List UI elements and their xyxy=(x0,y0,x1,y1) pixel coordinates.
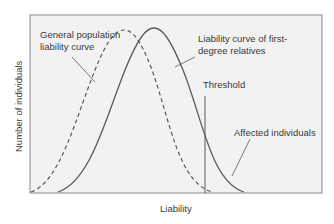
general-label-2: liability curve xyxy=(40,41,94,52)
y-axis-label: Number of individuals xyxy=(13,60,24,152)
relatives-label-2: degree relatives xyxy=(198,45,266,56)
relatives-label-1: Liability curve of first- xyxy=(198,33,287,44)
general-label-1: General population xyxy=(40,29,120,40)
liability-threshold-diagram: General population liability curve Liabi… xyxy=(0,0,334,224)
threshold-label: Threshold xyxy=(203,79,245,90)
affected-label: Affected individuals xyxy=(234,127,316,138)
x-axis-label: Liability xyxy=(160,203,192,214)
